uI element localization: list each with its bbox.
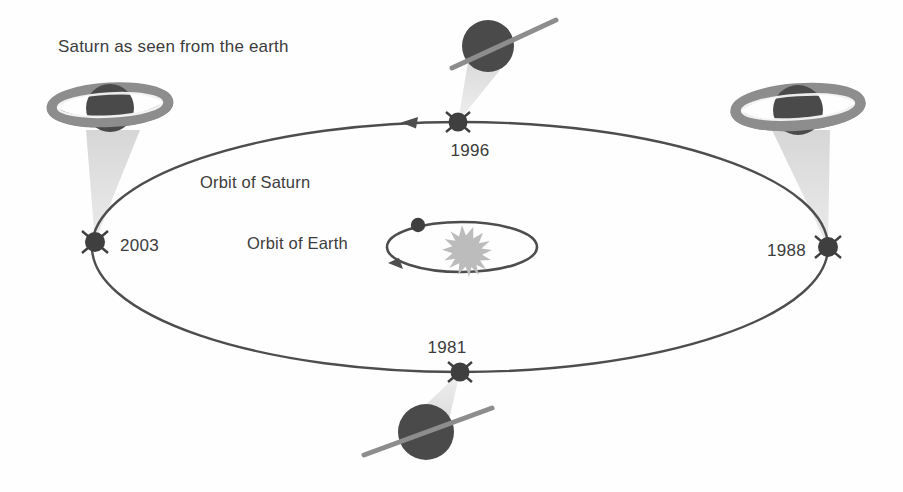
- year-label-1981: 1981: [427, 338, 466, 357]
- year-label-2003: 2003: [120, 236, 159, 255]
- orbit-of-saturn-label: Orbit of Saturn: [200, 173, 310, 191]
- diagram-title: Saturn as seen from the earth: [58, 37, 289, 56]
- orbit-of-earth-label: Orbit of Earth: [247, 234, 348, 252]
- orbit-marker-2003: [82, 231, 108, 253]
- orbit-marker-1981: [448, 362, 472, 382]
- diagram-canvas: 2003 1988 1996: [0, 0, 903, 492]
- orbit-marker-1988: [815, 236, 841, 258]
- year-label-1988: 1988: [767, 241, 806, 260]
- saturn-planet-1996: [462, 20, 514, 72]
- saturn-orbit-diagram: 2003 1988 1996: [0, 0, 903, 492]
- orbit-marker-1996: [446, 112, 470, 132]
- year-label-1996: 1996: [450, 141, 489, 160]
- earth-marker: [411, 218, 425, 232]
